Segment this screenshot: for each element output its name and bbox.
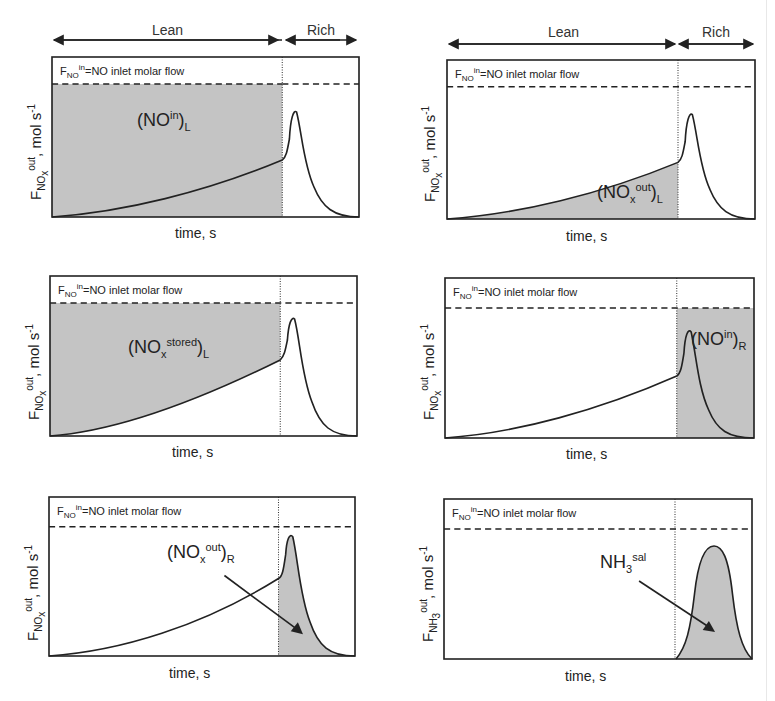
phase-lean-label-right: Lean xyxy=(548,24,579,40)
x-axis-label: time, s xyxy=(566,446,607,462)
panel-f: FNOin=NO inlet molar flow NH3sal xyxy=(444,499,752,659)
x-axis-label: time, s xyxy=(172,444,213,460)
inlet-flow-label: FNOin=NO inlet molar flow xyxy=(453,284,577,301)
inlet-flow-label: FNOin=NO inlet molar flow xyxy=(455,66,579,83)
panel-e: FNOin=NO inlet molar flow (NOxout)R xyxy=(49,497,355,656)
inlet-flow-label: FNOin=NO inlet molar flow xyxy=(58,282,182,299)
x-axis-label: time, s xyxy=(566,228,607,244)
x-axis-label: time, s xyxy=(169,665,210,681)
area-label-nh3-slip: NH3sal xyxy=(600,551,646,575)
area-label-nox-out-lean: (NOxout)L xyxy=(597,181,663,205)
panel-b: FNOin=NO inlet molar flow (NOxout)L xyxy=(447,60,755,219)
y-axis-label: FNOxout, mol s-1 xyxy=(419,324,443,420)
panel-c: FNOin=NO inlet molar flow (NOxstored)L xyxy=(50,276,357,436)
area-label-no-in-lean: (NOin)L xyxy=(137,109,191,133)
y-axis-label: FNOxout, mol s-1 xyxy=(420,106,444,202)
y-axis-label: FNOxout, mol s-1 xyxy=(26,104,50,200)
inlet-flow-label: FNOin=NO inlet molar flow xyxy=(60,63,184,80)
y-axis-label-nh3: FNH3out, mol s-1 xyxy=(418,546,442,642)
phase-rich-label-right: Rich xyxy=(702,24,730,40)
page-edge xyxy=(766,0,767,701)
area-label-no-in-rich: (NOin)R xyxy=(691,328,747,352)
inlet-flow-label: FNOin=NO inlet molar flow xyxy=(452,505,576,522)
y-axis-label: FNOxout, mol s-1 xyxy=(24,324,48,420)
area-label-nox-out-rich: (NOxout)R xyxy=(167,541,235,565)
x-axis-label: time, s xyxy=(175,225,216,241)
x-axis-label: time, s xyxy=(565,668,606,684)
panel-d: FNOin=NO inlet molar flow (NOin)R xyxy=(445,278,754,438)
phase-lean-label: Lean xyxy=(152,22,183,38)
phase-rich-label: Rich xyxy=(307,22,335,38)
area-label-nox-stored-lean: (NOxstored)L xyxy=(128,336,209,360)
y-axis-label: FNOxout, mol s-1 xyxy=(23,545,47,641)
panel-a: FNOin=NO inlet molar flow (NOin)L xyxy=(52,57,359,217)
inlet-flow-label: FNOin=NO inlet molar flow xyxy=(57,503,181,520)
